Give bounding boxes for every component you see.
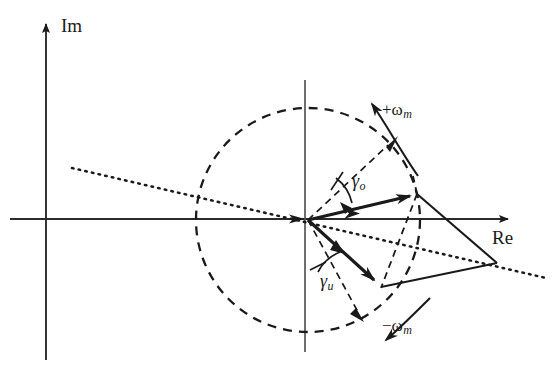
- negative-omega-sign: −: [382, 316, 392, 335]
- negative-omega-symbol: ω: [392, 316, 403, 335]
- lower-tip-to-right-vertex: [381, 263, 497, 287]
- gamma-u-arc: [318, 252, 340, 272]
- gamma-u-label: γu: [320, 272, 334, 292]
- upper-phasor-vector: [308, 196, 410, 220]
- negative-omega-label: −ωm: [382, 317, 412, 336]
- gamma-u-arc-tick: [310, 262, 326, 270]
- positive-omega-subscript: m: [403, 107, 412, 121]
- gamma-o-subscript: o: [360, 179, 366, 193]
- phasor-diagram-figure: Im Re γo γu +ωm −ωm: [0, 0, 552, 367]
- negative-omega-subscript: m: [403, 323, 412, 337]
- gamma-u-symbol: γ: [320, 271, 327, 291]
- upper-tip-to-right-vertex: [417, 194, 497, 263]
- positive-omega-symbol: ω: [392, 100, 403, 119]
- phasor-tip-chord: [381, 194, 417, 288]
- gamma-u-subscript: u: [328, 279, 334, 293]
- gamma-o-symbol: γ: [352, 171, 359, 191]
- imaginary-axis-label: Im: [61, 16, 82, 35]
- real-axis-label: Re: [492, 228, 513, 247]
- real-axis: [10, 215, 508, 224]
- upper-tip-stub: [413, 176, 417, 194]
- lower-reference-arrowhead: [350, 308, 364, 322]
- diagram-canvas: [0, 0, 552, 367]
- positive-omega-label: +ωm: [382, 101, 412, 120]
- gamma-o-arc-tick: [331, 172, 343, 190]
- positive-omega-sign: +: [382, 100, 392, 119]
- gamma-o-label: γo: [352, 172, 366, 192]
